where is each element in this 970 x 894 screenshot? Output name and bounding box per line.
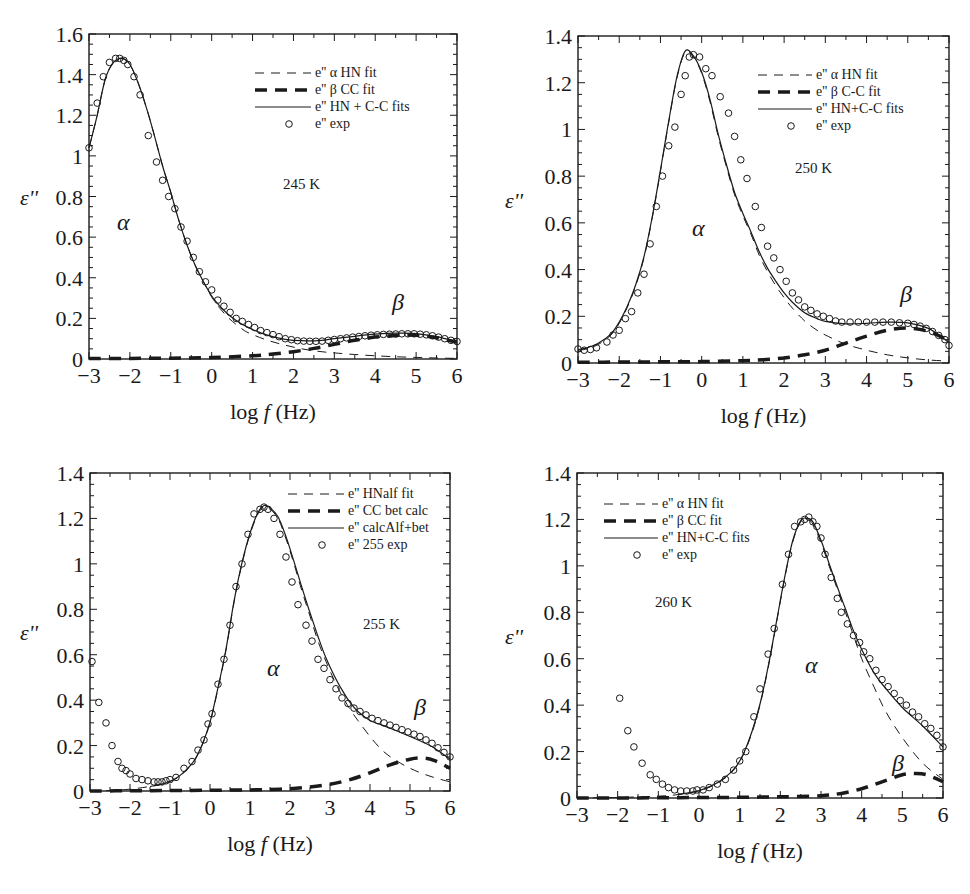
series-line-thick-dash [89,335,457,359]
y-tick-label: 0 [72,347,83,372]
alpha-annotation: α [117,209,130,235]
y-tick-label: 1 [561,117,572,142]
y-tick-label: 0 [73,779,84,804]
x-tick-label: 2 [775,802,786,827]
x-tick-label: 0 [694,802,705,827]
y-tick-label: 0.2 [544,740,572,765]
y-tick-label: 1.4 [545,24,573,49]
y-tick-label: 1 [560,554,571,579]
legend: e'' α HN fite'' β CC fite'' HN+C-C fitse… [604,496,750,562]
x-tick-label: −2 [118,795,141,820]
x-tick-label: −2 [606,802,629,827]
y-tick-label: 1.4 [56,63,84,88]
alpha-annotation: α [692,215,705,241]
y-axis-label: ε'' [505,624,523,649]
chart-panel-2: −3−2−1012345600.20.40.60.811.21.4log f (… [505,24,955,428]
legend-label: e'' exp [662,547,697,562]
legend: e'' α HN fite'' β CC fite'' HN + C-C fit… [255,65,410,131]
y-tick-label: 0.2 [545,304,573,329]
x-tick-label: 0 [205,795,216,820]
x-tick-label: 5 [405,795,416,820]
x-tick-label: 6 [944,367,955,392]
legend-marker-circle [286,121,293,128]
legend-label: e'' exp [315,116,350,131]
beta-annotation: β [899,281,912,307]
y-tick-label: 0.8 [57,597,85,622]
x-tick-label: 1 [245,795,256,820]
x-axis-label: log f (Hz) [227,831,313,856]
beta-annotation: β [391,289,404,315]
y-axis-label: ε'' [20,185,38,210]
y-tick-label: 0.2 [56,306,84,331]
alpha-annotation: α [267,655,280,681]
legend-marker-circle [788,123,795,130]
y-tick-label: 1.4 [57,461,85,486]
legend-label: e'' exp [816,118,851,133]
legend-marker-circle [319,542,326,549]
temperature-annotation: 255 K [363,616,400,632]
series-line-thin-dash [577,519,943,798]
legend-marker-circle [634,552,641,559]
x-tick-label: 5 [411,363,422,388]
y-tick-label: 0 [560,786,571,811]
legend-label: e'' CC bet calc [348,503,428,518]
y-tick-label: 1.2 [544,507,572,532]
chart-panel-4: −3−2−1012345600.20.40.60.811.21.4log f (… [505,461,949,863]
y-tick-label: 0.6 [56,225,84,250]
legend-label: e'' α HN fit [816,67,878,82]
x-tick-label: 3 [816,802,827,827]
y-axis-label: ε'' [505,188,523,213]
y-tick-label: 0.4 [56,266,84,291]
series-exp-points [575,51,953,353]
legend-label: e'' β C-C fit [816,84,881,99]
y-tick-label: 1.4 [544,461,572,486]
series-line-thick-dash [578,328,949,362]
x-tick-label: 6 [938,802,949,827]
y-tick-label: 0.4 [57,688,85,713]
x-tick-label: 3 [820,367,831,392]
y-tick-label: 0.6 [57,643,85,668]
y-tick-label: 1.2 [57,506,85,531]
figure-canvas: −3−2−1012345600.20.40.60.811.21.41.6log … [0,0,970,894]
x-tick-label: 3 [325,795,336,820]
x-tick-label: −1 [158,795,181,820]
x-tick-label: 2 [285,795,296,820]
x-tick-label: 4 [365,795,376,820]
y-tick-label: 0.6 [544,647,572,672]
chart-panel-3: −3−2−1012345600.20.40.60.811.21.4log f (… [20,461,456,856]
y-tick-label: 1 [72,144,83,169]
temperature-annotation: 250 K [795,160,832,176]
x-axis-label: log f (Hz) [230,399,316,424]
x-tick-label: 2 [288,363,299,388]
x-tick-label: 1 [247,363,258,388]
y-tick-label: 0 [561,351,572,376]
legend-label: e'' β CC fit [315,82,375,97]
legend-label: e'' HNalf fit [348,486,414,501]
y-tick-label: 0.4 [545,258,573,283]
y-tick-label: 0.8 [545,164,573,189]
y-tick-label: 0.6 [545,211,573,236]
y-tick-label: 1.6 [56,22,84,47]
legend-label: e'' α HN fit [315,65,377,80]
x-axis-label: log f (Hz) [717,838,803,863]
x-tick-label: −1 [647,802,670,827]
y-tick-label: 0.8 [56,185,84,210]
legend: e'' α HN fite'' β C-C fite'' HN+C-C fits… [758,67,904,133]
x-tick-label: 6 [445,795,456,820]
y-tick-label: 1.2 [56,103,84,128]
legend-label: e'' β CC fit [662,513,722,528]
legend-label: e'' HN+C-C fits [662,530,750,545]
x-tick-label: 1 [737,367,748,392]
y-axis-label: ε'' [20,620,38,645]
legend: e'' HNalf fite'' CC bet calce'' calcAlf+… [288,486,429,552]
legend-label: e'' α HN fit [662,496,724,511]
legend-label: e'' 255 exp [348,537,407,552]
x-tick-label: 3 [329,363,340,388]
legend-label: e'' calcAlf+bet [348,520,429,535]
alpha-annotation: α [805,652,818,678]
x-tick-label: 2 [779,367,790,392]
y-tick-label: 0.2 [57,734,85,759]
x-tick-label: 4 [856,802,867,827]
series-line-solid [578,50,949,350]
x-axis-label: log f (Hz) [721,403,807,428]
